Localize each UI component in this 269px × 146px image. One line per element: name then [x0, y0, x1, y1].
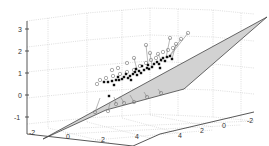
data-point-filled	[130, 79, 132, 81]
data-point-filled	[125, 73, 127, 75]
data-point-filled	[134, 71, 136, 73]
data-point-open	[171, 46, 174, 49]
data-point-filled	[158, 63, 160, 65]
regression-plane	[43, 17, 267, 139]
data-point-filled	[123, 76, 125, 78]
data-point-open	[154, 56, 157, 59]
data-point-filled	[135, 68, 137, 70]
data-point-open	[111, 74, 114, 77]
data-point-filled	[166, 56, 168, 58]
data-point-filled	[159, 67, 161, 69]
data-point-filled	[140, 72, 142, 74]
y-tick-4: 4	[178, 132, 182, 139]
data-point-filled	[115, 79, 117, 81]
grid-lines	[27, 8, 254, 143]
residual-stem	[170, 33, 188, 56]
z-tick-0: 0	[18, 92, 22, 99]
data-point-open	[161, 50, 164, 53]
y-tick-2: 2	[200, 127, 204, 134]
x-axis	[27, 134, 133, 146]
z-tick-3: 3	[18, 26, 22, 33]
data-point-filled	[171, 58, 173, 60]
data-point-open	[116, 66, 119, 69]
axes	[27, 21, 254, 146]
z-tick-2: 2	[18, 48, 22, 55]
data-point-filled	[118, 79, 120, 81]
regression-3d-plot: 3 2 1 0 -1 -2 0 2 4 4 2 0 -2	[0, 0, 269, 146]
data-point-filled	[129, 75, 131, 77]
data-point-open	[104, 76, 107, 79]
data-point-open	[95, 82, 98, 85]
data-point-filled	[113, 84, 115, 86]
x-tick-neg2: -2	[29, 129, 35, 136]
data-point-filled	[108, 95, 110, 97]
data-point-filled	[164, 60, 166, 62]
data-point-filled	[148, 68, 150, 70]
data-point-open	[118, 72, 121, 75]
z-tick-neg1: -1	[14, 114, 20, 121]
y-tick-0: 0	[222, 122, 226, 129]
data-point-filled	[143, 69, 145, 71]
x-tick-2: 2	[101, 136, 105, 143]
data-point-filled	[147, 64, 149, 66]
data-point-filled	[151, 66, 153, 68]
x-tick-0: 0	[66, 133, 70, 140]
data-point-filled	[141, 65, 143, 67]
data-point-filled	[136, 74, 138, 76]
data-point-filled	[103, 81, 105, 83]
data-point-filled	[107, 81, 109, 83]
data-point-filled	[117, 76, 119, 78]
data-point-filled	[169, 55, 171, 57]
x-tick-4: 4	[135, 133, 139, 140]
data-point-filled	[111, 80, 113, 82]
y-tick-labels: 4 2 0 -2	[178, 117, 253, 139]
data-point-filled	[162, 57, 164, 59]
data-point-open	[110, 68, 113, 71]
z-tick-1: 1	[18, 70, 22, 77]
y-tick-neg2: -2	[247, 117, 253, 124]
data-point-filled	[153, 63, 155, 65]
data-point-open	[98, 78, 101, 81]
